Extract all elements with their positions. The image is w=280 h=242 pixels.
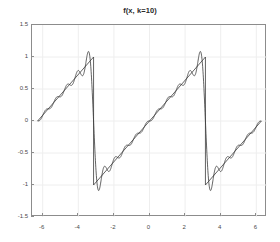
x-tick-mark bbox=[77, 213, 78, 216]
x-tick-mark bbox=[113, 213, 114, 216]
x-tick-label: -6 bbox=[32, 224, 52, 231]
x-tick-label: -4 bbox=[67, 224, 87, 231]
x-tick-label: 4 bbox=[210, 224, 230, 231]
x-tick-label: 2 bbox=[174, 224, 194, 231]
y-tick-mark bbox=[31, 120, 34, 121]
x-axis-tick-labels: -6-4-20246 bbox=[0, 220, 280, 232]
y-tick-label: -1.5 bbox=[4, 213, 28, 220]
y-tick-mark bbox=[31, 152, 34, 153]
y-tick-mark bbox=[31, 24, 34, 25]
chart-title: f(x, k=10) bbox=[0, 6, 280, 16]
y-tick-label: 1 bbox=[4, 53, 28, 60]
x-tick-mark bbox=[42, 213, 43, 216]
x-tick-label: 6 bbox=[245, 224, 265, 231]
y-axis-tick-labels: -1.5-1-0.500.511.5 bbox=[0, 0, 28, 242]
y-tick-label: 0.5 bbox=[4, 85, 28, 92]
plot-area bbox=[31, 24, 266, 216]
y-tick-mark bbox=[31, 216, 34, 217]
y-tick-label: -0.5 bbox=[4, 149, 28, 156]
y-tick-mark bbox=[31, 56, 34, 57]
x-tick-mark bbox=[255, 213, 256, 216]
y-tick-mark bbox=[31, 184, 34, 185]
x-tick-mark bbox=[149, 213, 150, 216]
matlab-figure: f(x, k=10) -1.5-1-0.500.511.5 -6-4-20246 bbox=[0, 0, 280, 242]
y-tick-mark bbox=[31, 88, 34, 89]
x-tick-label: 0 bbox=[139, 224, 159, 231]
x-tick-mark bbox=[184, 213, 185, 216]
x-tick-label: -2 bbox=[103, 224, 123, 231]
x-tick-mark bbox=[220, 213, 221, 216]
plot-canvas bbox=[32, 25, 267, 217]
y-tick-label: 0 bbox=[4, 117, 28, 124]
y-tick-label: 1.5 bbox=[4, 21, 28, 28]
y-tick-label: -1 bbox=[4, 181, 28, 188]
